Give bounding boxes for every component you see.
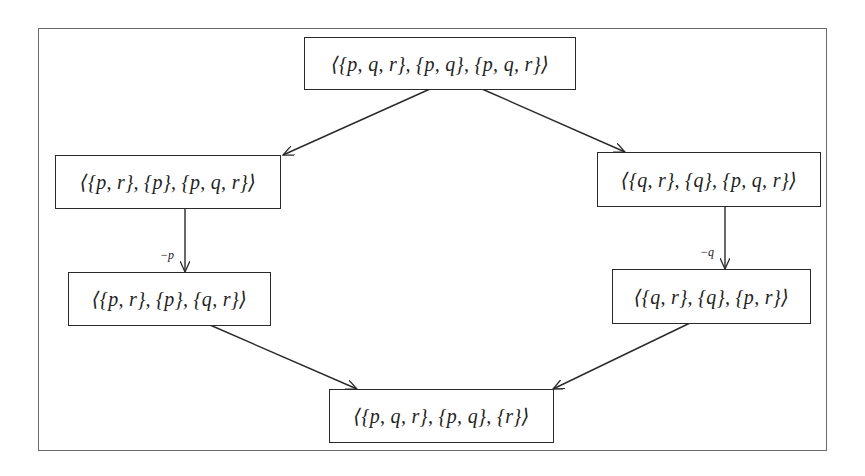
node-label: ⟨{p, q, r}, {p, q}, {p, q, r}⟩ [331,52,549,76]
node-right-low: ⟨{q, r}, {q}, {p, r}⟩ [612,269,811,324]
edge-left-low-to-bottom [210,325,357,389]
node-right-mid: ⟨{q, r}, {q}, {p, q, r}⟩ [597,152,821,207]
node-left-low: ⟨{p, r}, {p}, {q, r}⟩ [68,272,271,326]
edge-label-minus-q: −q [700,245,714,260]
edge-label-minus-p: −p [160,248,174,263]
node-label: ⟨{p, r}, {p}, {q, r}⟩ [92,287,247,311]
node-bottom: ⟨{p, q, r}, {p, q}, {r}⟩ [329,389,554,443]
node-label: ⟨{q, r}, {q}, {p, r}⟩ [634,285,789,309]
edge-top-to-left-mid [283,89,430,155]
edge-right-low-to-bottom [553,323,690,389]
node-label: ⟨{p, r}, {p}, {p, q, r}⟩ [80,170,256,194]
node-top: ⟨{p, q, r}, {p, q}, {p, q, r}⟩ [304,37,576,90]
node-label: ⟨{p, q, r}, {p, q}, {r}⟩ [353,404,529,428]
node-left-mid: ⟨{p, r}, {p}, {p, q, r}⟩ [55,155,281,209]
edge-top-to-right-mid [482,89,625,152]
node-label: ⟨{q, r}, {q}, {p, q, r}⟩ [621,168,797,192]
